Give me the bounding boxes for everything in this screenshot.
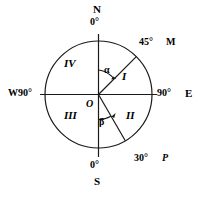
north-cardinal-label: N — [93, 4, 101, 15]
quadrant-i-label: I — [122, 71, 126, 82]
point-m-label: M — [166, 37, 175, 47]
beta-angle-label: β — [99, 117, 104, 127]
point-p-label: P — [162, 153, 168, 163]
quadrant-ii-label: II — [126, 110, 135, 121]
ray-om — [99, 57, 137, 95]
ray-om-degree-label: 45° — [139, 37, 153, 47]
quadrant-iv-label: IV — [64, 58, 76, 69]
quadrant-iii-label: III — [64, 110, 77, 121]
center-point-label: O — [86, 99, 93, 109]
east-degree-label: 90° — [157, 88, 171, 98]
figure-canvas — [0, 0, 202, 197]
south-cardinal-label: S — [94, 176, 100, 187]
ray-op-degree-label: 30° — [134, 153, 148, 163]
azimuth-circle-figure: N 0° 0° S W90° 90° E 45° M 30° P I II II… — [0, 0, 202, 197]
west-degree-label: W90° — [8, 88, 32, 98]
alpha-angle-label: α — [104, 65, 110, 75]
north-degree-label: 0° — [90, 17, 99, 27]
east-cardinal-label: E — [185, 88, 192, 99]
south-degree-label: 0° — [90, 160, 99, 170]
